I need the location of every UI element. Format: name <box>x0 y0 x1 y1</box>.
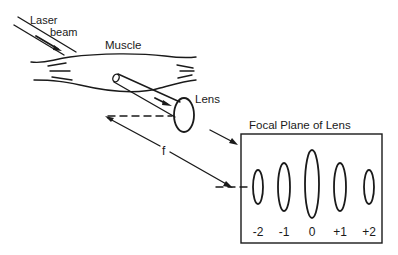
muscle-fiber <box>31 54 196 92</box>
order-spot-minus-2 <box>253 170 263 204</box>
order-spot-plus-1 <box>334 163 346 211</box>
beam-arrow-icon <box>162 100 172 106</box>
order-label: +2 <box>362 225 376 239</box>
laser-label: Laser <box>30 14 58 26</box>
diffracted-beam <box>112 73 180 117</box>
diffraction-orders <box>253 150 374 218</box>
focal-distance-label: f <box>162 144 166 158</box>
laser-arrow-icon <box>53 45 62 51</box>
beam-label: beam <box>50 26 78 38</box>
order-spot-0 <box>305 150 319 218</box>
focal-distance-arrow <box>105 116 233 188</box>
lens <box>174 98 194 132</box>
laser-diffraction-diagram: Laser beam Muscle Lens f Focal P <box>0 0 398 255</box>
order-label: +1 <box>333 225 347 239</box>
order-spot-plus-2 <box>364 170 374 204</box>
focal-plane-title: Focal Plane of Lens <box>249 119 351 131</box>
order-spot-minus-1 <box>278 163 290 211</box>
order-label: -1 <box>279 225 290 239</box>
focal-plane-pointer <box>210 130 233 142</box>
order-label: -2 <box>253 225 264 239</box>
lens-label: Lens <box>195 93 220 105</box>
order-labels: -2 -1 0 +1 +2 <box>253 225 377 239</box>
muscle-label: Muscle <box>105 39 141 51</box>
order-label: 0 <box>309 225 316 239</box>
pointer-arrow-icon <box>229 138 238 145</box>
